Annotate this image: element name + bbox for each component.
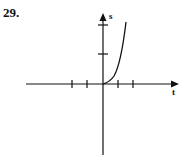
y-axis-arrow-icon	[100, 13, 107, 21]
curve-s-of-t	[103, 22, 126, 84]
x-axis-label: t	[172, 87, 175, 97]
y-axis-label: s	[109, 11, 113, 21]
graph: s t	[0, 0, 191, 164]
